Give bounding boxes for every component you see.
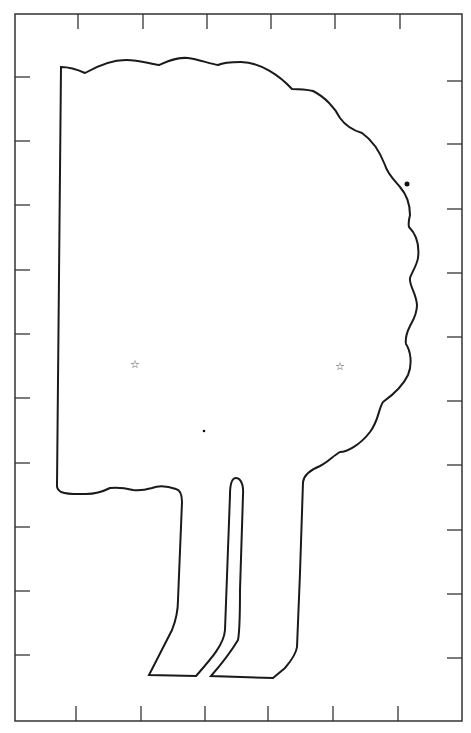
star-marker-right: ☆	[335, 361, 345, 372]
tick-marks	[15, 14, 462, 721]
outline-figure	[0, 0, 471, 733]
frame-border	[15, 14, 462, 721]
dot-marker	[203, 430, 206, 433]
diagram-canvas: ☆ ☆	[0, 0, 471, 733]
star-marker-left: ☆	[130, 359, 140, 370]
dot-markers	[203, 182, 410, 433]
body-outline	[57, 58, 418, 678]
dot-marker	[405, 182, 410, 187]
